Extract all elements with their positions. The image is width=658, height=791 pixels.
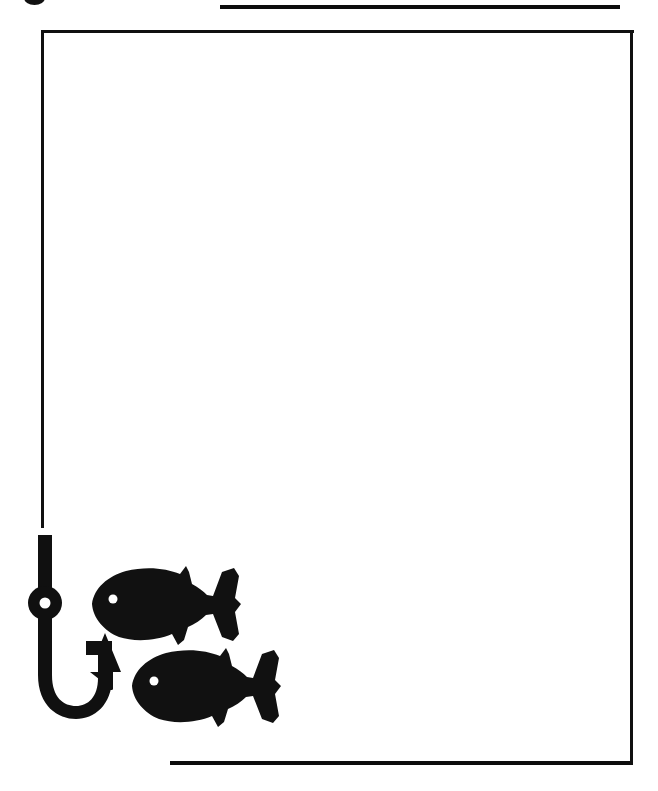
hook-eye-hole [40,598,51,609]
hook-barb [90,633,121,690]
frame-top-border [41,30,634,33]
hook-point-shaft [98,645,112,668]
hook-shank [38,535,52,607]
fish-lower [132,648,281,727]
frame-right-border [630,30,633,765]
fish-upper-body [92,566,241,645]
fish-upper-eye [109,595,118,604]
top-rule [220,5,620,9]
top-left-ink-mark [24,0,45,5]
page-canvas [0,0,658,791]
hook-bend [38,612,112,719]
hook-point [86,641,112,690]
hook-eye-ring [28,586,62,620]
fishing-artwork [0,0,658,791]
frame-left-border [41,30,44,528]
fish-lower-eye [150,677,159,686]
fishing-hook-icon [28,535,121,719]
bottom-rule [170,761,632,765]
fish-upper [92,566,241,645]
fish-lower-body [132,648,281,727]
